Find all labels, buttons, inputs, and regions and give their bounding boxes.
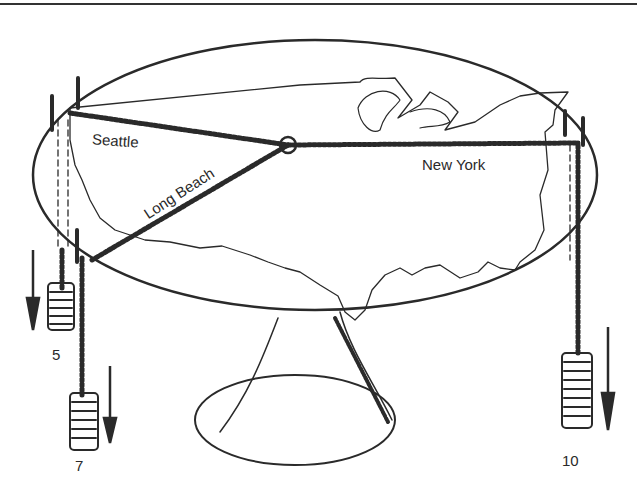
rope-long-beach	[92, 145, 288, 260]
arrow-down-icon	[602, 327, 614, 430]
arrow-down-icon	[27, 250, 39, 330]
arrow-down-icon	[104, 366, 116, 443]
weight-label-new-york: 10	[562, 452, 579, 469]
varignon-frame-illustration	[0, 0, 637, 494]
city-label-seattle: Seattle	[91, 130, 139, 150]
weight-label-long-beach: 7	[75, 457, 83, 474]
weight-7	[70, 393, 98, 450]
weight-label-seattle: 5	[52, 346, 60, 363]
pedestal	[195, 312, 395, 465]
weight-10	[562, 353, 592, 428]
rope-new-york	[288, 143, 578, 145]
city-label-new-york: New York	[422, 156, 485, 173]
